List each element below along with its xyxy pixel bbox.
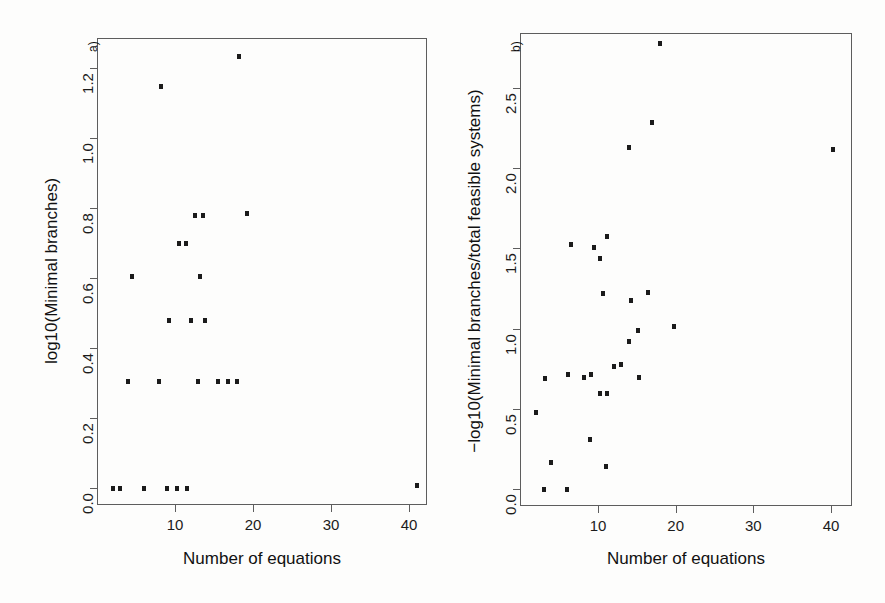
y-tick-label: 1.0 [502,328,519,360]
data-point [636,328,640,333]
data-point [601,291,605,296]
y-tick-label: 1.0 [79,138,96,170]
x-tick [175,505,176,512]
x-tick [253,505,254,512]
data-point [237,54,241,59]
y-tick-label: 0.0 [502,489,519,521]
data-point [193,213,197,218]
data-point [196,379,200,384]
data-point [565,487,569,492]
data-point [165,486,169,491]
plot-area-a [97,38,427,505]
x-tick [409,505,410,512]
data-point [598,256,602,261]
data-point [637,375,641,380]
y-tick-label: 0.4 [79,348,96,380]
data-point [588,437,592,442]
data-point [177,241,181,246]
data-point [627,339,631,344]
x-tick [753,506,754,513]
y-tick-label: 0.6 [79,278,96,310]
x-tick-label: 40 [823,517,840,534]
y-tick-label: 1.5 [502,248,519,280]
data-point [543,376,547,381]
data-point [646,290,650,295]
x-tick-label: 20 [245,516,262,533]
data-point [157,379,161,384]
panel-label-a: a) [86,41,100,52]
y-axis-title-b: −log10(Minimal branches/total feasible s… [465,89,485,452]
x-tick-label: 30 [323,516,340,533]
data-point [672,324,676,329]
data-point [605,391,609,396]
panel-b: b) −log10(Minimal branches/total feasibl… [443,0,885,603]
x-tick [331,505,332,512]
y-tick-label: 2.5 [502,88,519,120]
x-tick-label: 30 [745,517,762,534]
x-tick-label: 10 [167,516,184,533]
data-point [566,372,570,377]
data-point [118,486,122,491]
data-point [605,234,609,239]
y-tick-label: 2.0 [502,168,519,200]
figure-canvas: a) log10(Minimal branches) Number of equ… [0,0,885,603]
data-point [658,41,662,46]
data-point [612,364,616,369]
data-point [167,318,171,323]
x-tick [598,506,599,513]
data-point [534,410,538,415]
data-point [184,241,188,246]
data-point [189,318,193,323]
data-point [604,464,608,469]
data-point [598,391,602,396]
data-point [549,460,553,465]
data-point [589,372,593,377]
y-tick-label: 0.5 [502,408,519,440]
panel-label-b: b) [509,41,523,52]
data-point [569,242,573,247]
data-point [201,213,205,218]
x-tick-label: 40 [401,516,418,533]
data-point [203,318,207,323]
data-point [198,274,202,279]
data-point [415,483,419,488]
data-point [142,486,146,491]
y-tick-label: 0.0 [79,488,96,520]
data-point [629,298,633,303]
data-point [159,84,163,89]
x-tick [676,506,677,513]
y-tick-label: 0.2 [79,418,96,450]
y-tick-label: 0.8 [79,208,96,240]
data-point [185,486,189,491]
data-point [592,245,596,250]
data-point [245,211,249,216]
plot-area-b [520,33,852,506]
y-axis-title-a: log10(Minimal branches) [42,178,62,364]
data-point [619,362,623,367]
x-tick-label: 10 [590,517,607,534]
x-tick-label: 20 [667,517,684,534]
data-point [542,487,546,492]
data-point [130,274,134,279]
x-tick [831,506,832,513]
data-point [650,120,654,125]
data-point [175,486,179,491]
panel-a: a) log10(Minimal branches) Number of equ… [0,0,442,603]
data-point [111,486,115,491]
data-point [216,379,220,384]
data-point [235,379,239,384]
x-axis-title-b: Number of equations [607,549,765,569]
data-point [126,379,130,384]
x-axis-title-a: Number of equations [183,549,341,569]
data-point [831,147,835,152]
data-point [582,375,586,380]
data-point [627,145,631,150]
y-tick-label: 1.2 [79,68,96,100]
data-point [226,379,230,384]
